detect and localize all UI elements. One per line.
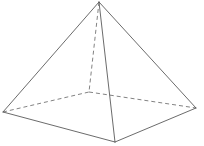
pyramid-figure [0,0,204,146]
figure-background [0,0,204,146]
pyramid-svg [0,0,204,146]
